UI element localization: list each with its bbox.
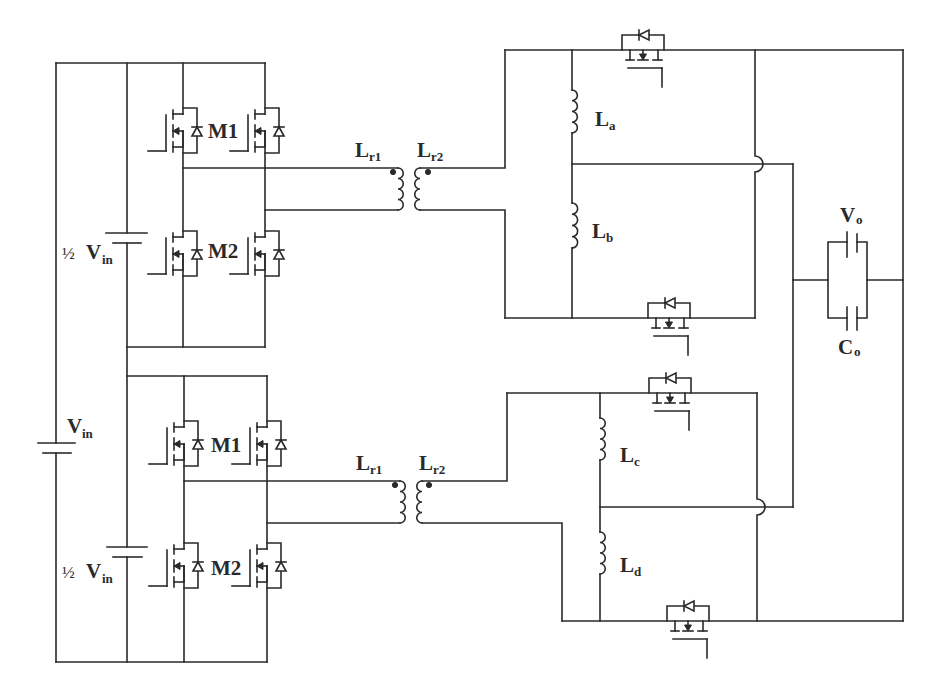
lower-m1-label: M1 bbox=[211, 433, 241, 457]
upper-transformer: L r1 L r2 bbox=[355, 50, 505, 318]
vin-label-sub: in bbox=[82, 426, 94, 441]
upper-top-switch-mosfet-icon bbox=[622, 30, 664, 87]
lower-half-vin-label: V bbox=[86, 559, 101, 583]
upper-half-vin-prefix: ½ bbox=[62, 244, 75, 263]
lc-sub: c bbox=[634, 454, 640, 469]
lower-lr1-label: L bbox=[356, 451, 370, 475]
lower-m2-left-mosfet-icon bbox=[149, 543, 203, 588]
upper-half-vin-sub: in bbox=[102, 252, 114, 267]
lc-label: L bbox=[620, 443, 634, 467]
lower-half-vin-prefix: ½ bbox=[62, 563, 75, 582]
lower-transformer: L r1 L r2 bbox=[356, 393, 562, 621]
lower-half-vin-sub: in bbox=[102, 571, 114, 586]
upper-m2-left-mosfet-icon bbox=[148, 231, 202, 276]
ld-sub: d bbox=[634, 564, 642, 579]
inductor-lb-icon bbox=[572, 203, 578, 248]
vin-label: V bbox=[67, 414, 82, 438]
upper-m1-left-mosfet-icon bbox=[148, 108, 202, 153]
la-label: L bbox=[595, 107, 609, 131]
upper-half-vin-label: V bbox=[86, 240, 101, 264]
lower-secondary-dot-icon bbox=[426, 482, 431, 487]
upper-secondary-coil-icon bbox=[415, 168, 420, 210]
output-stage: V o C o bbox=[793, 50, 903, 621]
vo-label: V bbox=[840, 203, 855, 227]
upper-return-wire-with-hop bbox=[755, 50, 763, 318]
inductor-ld-icon bbox=[600, 532, 605, 574]
co-label: C bbox=[838, 335, 853, 359]
upper-secondary-dot-icon bbox=[425, 169, 430, 174]
la-sub: a bbox=[609, 118, 616, 133]
upper-primary-dot-icon bbox=[390, 169, 395, 174]
lower-bottom-switch-mosfet-icon bbox=[667, 601, 709, 658]
lower-bridge: ½ V in M1 M2 bbox=[62, 376, 400, 662]
lower-secondary-bottom-wire bbox=[422, 523, 562, 621]
upper-lr1-label: L bbox=[355, 138, 369, 162]
lower-primary-dot-icon bbox=[392, 482, 397, 487]
vo-sub: o bbox=[856, 212, 863, 227]
upper-lr2-sub: r2 bbox=[431, 149, 443, 164]
lower-m2-label: M2 bbox=[211, 556, 241, 580]
ld-label: L bbox=[620, 553, 634, 577]
lower-rectifier: L c L d bbox=[507, 373, 903, 658]
lower-lr1-sub: r1 bbox=[370, 462, 382, 477]
lb-label: L bbox=[592, 219, 606, 243]
lb-sub: b bbox=[606, 230, 613, 245]
upper-m1-label: M1 bbox=[208, 119, 238, 143]
lower-m1-left-mosfet-icon bbox=[149, 421, 203, 466]
upper-primary-coil-icon bbox=[398, 168, 403, 210]
upper-lr2-label: L bbox=[417, 138, 431, 162]
upper-bottom-switch-mosfet-icon bbox=[648, 298, 690, 355]
upper-rectifier: L a L b bbox=[505, 30, 903, 355]
circuit-diagram: V in ½ V in M1 M2 ½ V in bbox=[0, 0, 940, 693]
upper-m2-label: M2 bbox=[208, 239, 238, 263]
upper-lr1-sub: r1 bbox=[369, 149, 381, 164]
lower-lr2-label: L bbox=[419, 451, 433, 475]
upper-secondary-bottom-wire bbox=[420, 210, 505, 318]
lower-lr2-sub: r2 bbox=[433, 462, 445, 477]
co-sub: o bbox=[854, 344, 861, 359]
upper-bridge: ½ V in M1 M2 bbox=[62, 63, 398, 347]
inductor-lc-icon bbox=[600, 418, 605, 460]
inductor-la-icon bbox=[572, 90, 577, 133]
lower-top-switch-mosfet-icon bbox=[649, 373, 691, 430]
lower-secondary-coil-icon bbox=[417, 481, 422, 523]
lower-primary-coil-icon bbox=[400, 481, 405, 523]
